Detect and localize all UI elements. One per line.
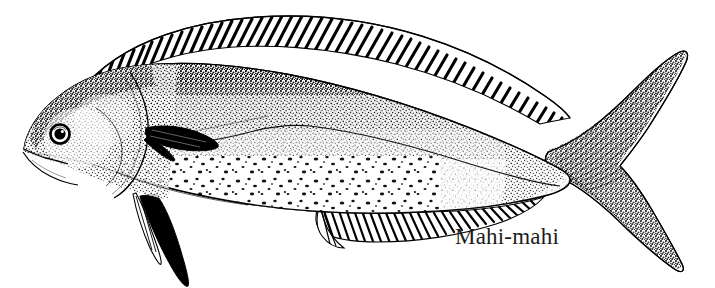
species-label: Mahi-mahi [455,225,559,248]
illustration-plate: Mahi-mahi [0,0,715,288]
mahi-mahi-illustration [0,0,715,288]
eye [51,125,70,144]
